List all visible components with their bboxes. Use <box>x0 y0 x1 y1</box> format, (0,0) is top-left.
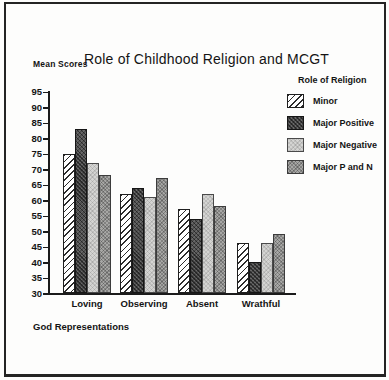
y-tick-label: 95 <box>16 86 42 97</box>
bar-observing-major-p-and-n <box>156 178 168 293</box>
y-tick-mark <box>43 107 48 109</box>
legend-item-major-negative: Major Negative <box>287 134 377 156</box>
y-tick-mark <box>43 200 48 202</box>
y-tick-label: 40 <box>16 257 42 268</box>
bar-loving-major-p-and-n <box>99 175 111 293</box>
y-tick-mark <box>43 169 48 171</box>
y-tick-mark <box>43 247 48 249</box>
y-tick-label: 60 <box>16 195 42 206</box>
y-axis-title: Mean Scores <box>33 59 88 69</box>
y-tick-label: 30 <box>16 288 42 299</box>
y-tick-mark <box>43 216 48 218</box>
legend-item-major-positive: Major Positive <box>287 112 377 134</box>
y-tick-mark <box>43 278 48 280</box>
legend-label: Major Negative <box>313 140 377 150</box>
bar-absent-minor <box>178 209 190 293</box>
bar-absent-major-p-and-n <box>214 206 226 293</box>
legend-label: Minor <box>313 96 338 106</box>
bar-wrathful-major-p-and-n <box>273 234 285 293</box>
legend-swatch-medium-gray-dot <box>287 160 304 174</box>
y-tick-label: 80 <box>16 133 42 144</box>
legend-item-major-p-and-n: Major P and N <box>287 156 377 178</box>
bar-absent-major-negative <box>202 194 214 293</box>
y-tick-mark <box>43 262 48 264</box>
bar-observing-major-positive <box>132 188 144 293</box>
y-tick-label: 45 <box>16 241 42 252</box>
legend-swatch-white-diagonal-hatch <box>287 94 304 108</box>
y-tick-mark <box>43 92 48 94</box>
bar-wrathful-minor <box>237 243 249 293</box>
y-tick-mark <box>43 293 48 295</box>
bar-wrathful-major-negative <box>261 243 273 293</box>
y-tick-label: 85 <box>16 117 42 128</box>
y-tick-label: 65 <box>16 179 42 190</box>
bar-loving-major-negative <box>87 163 99 293</box>
y-tick-mark <box>43 185 48 187</box>
y-tick-label: 90 <box>16 102 42 113</box>
legend-label: Major P and N <box>313 162 373 172</box>
x-category-label-wrathful: Wrathful <box>226 298 296 309</box>
y-tick-mark <box>43 154 48 156</box>
x-axis-title: God Representations <box>33 321 129 332</box>
y-tick-mark <box>43 123 48 125</box>
y-axis-line <box>48 91 50 294</box>
bar-absent-major-positive <box>190 219 202 293</box>
bar-loving-major-positive <box>75 129 87 293</box>
y-tick-label: 35 <box>16 272 42 283</box>
chart-title: Role of Childhood Religion and MCGT <box>84 51 329 67</box>
chart-page: Mean Scores Role of Childhood Religion a… <box>0 0 389 380</box>
bar-observing-minor <box>120 194 132 293</box>
x-axis-line <box>48 293 296 295</box>
legend-title: Role of Religion <box>298 75 367 85</box>
bar-observing-major-negative <box>144 197 156 293</box>
y-tick-label: 55 <box>16 210 42 221</box>
legend: MinorMajor PositiveMajor NegativeMajor P… <box>287 90 377 178</box>
legend-item-minor: Minor <box>287 90 377 112</box>
y-tick-label: 50 <box>16 226 42 237</box>
y-tick-mark <box>43 231 48 233</box>
y-tick-label: 75 <box>16 148 42 159</box>
legend-swatch-light-gray-dot <box>287 138 304 152</box>
y-tick-mark <box>43 138 48 140</box>
bar-wrathful-major-positive <box>249 262 261 293</box>
bar-loving-minor <box>63 154 75 294</box>
legend-label: Major Positive <box>313 118 374 128</box>
legend-swatch-dark-gray-check <box>287 116 304 130</box>
y-tick-label: 70 <box>16 164 42 175</box>
